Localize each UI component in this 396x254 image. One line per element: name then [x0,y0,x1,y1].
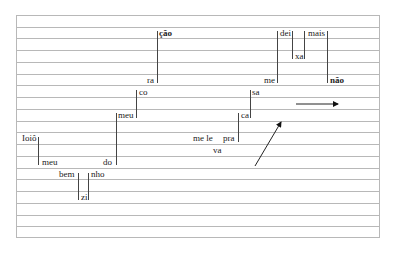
direction-arrows [0,0,396,254]
melodic-contour-diagram: çãoracomeuIoiômeudobemnhozisacame leprav… [0,0,396,254]
diagonal-arrow-icon [255,122,281,166]
